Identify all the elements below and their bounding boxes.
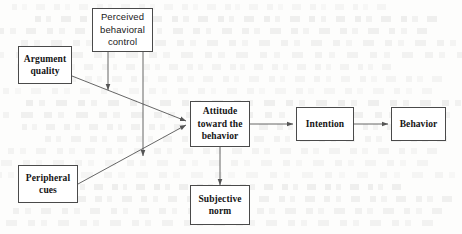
edge-argument-quality-to-attitude	[72, 76, 186, 121]
diagram-canvas: Argumentquality Perceivedbehavioralcontr…	[0, 0, 462, 234]
node-intention-label: Intention	[304, 118, 346, 130]
node-peripheral-cues: Peripheralcues	[18, 165, 78, 203]
node-perceived-control: Perceivedbehavioralcontrol	[92, 8, 153, 52]
node-subjective-norm: Subjectivenorm	[190, 185, 250, 225]
node-behavior: Behavior	[391, 107, 446, 141]
node-argument-quality: Argumentquality	[18, 46, 72, 84]
node-attitude-label: Attitudetoward thebehavior	[195, 105, 244, 142]
node-perceived-control-label: Perceivedbehavioralcontrol	[98, 11, 147, 48]
node-intention: Intention	[296, 107, 354, 141]
node-subjective-norm-label: Subjectivenorm	[196, 193, 243, 218]
node-argument-quality-label: Argumentquality	[22, 53, 69, 78]
node-behavior-label: Behavior	[398, 118, 440, 130]
node-attitude: Attitudetoward thebehavior	[190, 101, 250, 147]
edge-peripheral-cues-to-attitude	[78, 125, 186, 184]
node-peripheral-cues-label: Peripheralcues	[24, 172, 72, 197]
